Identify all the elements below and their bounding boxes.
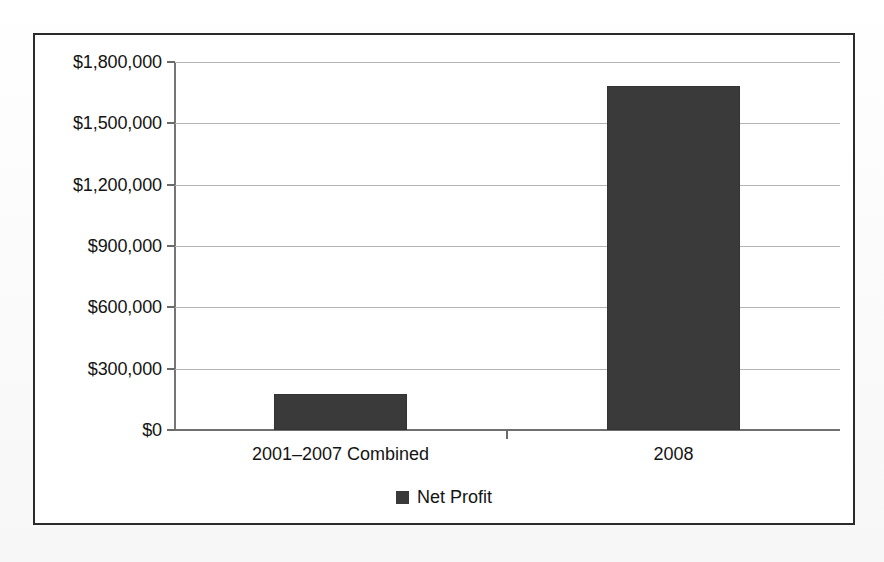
y-axis-label: $1,500,000 [73,113,162,134]
category-separator-tick [506,430,508,439]
y-axis-label: $1,200,000 [73,174,162,195]
y-axis-label: $600,000 [88,297,162,318]
y-axis-tick [167,245,175,247]
y-axis-tick [167,429,175,431]
y-axis-label: $0 [142,420,162,441]
bar-2 [607,86,740,430]
gridline [174,369,840,370]
gridline [174,123,840,124]
y-axis-tick [167,368,175,370]
gridline [174,62,840,63]
chart-legend: Net Profit [35,487,853,508]
gridline [174,246,840,247]
gridline [174,307,840,308]
y-axis-label: $300,000 [88,358,162,379]
bar-1 [274,394,407,430]
plot-area: $1,800,000$1,500,000$1,200,000$900,000$6… [174,62,840,430]
y-axis-tick [167,306,175,308]
chart-screenshot: $1,800,000$1,500,000$1,200,000$900,000$6… [0,0,884,562]
y-axis-label: $900,000 [88,236,162,257]
legend-swatch-net-profit [396,491,409,504]
x-axis-label-2: 2008 [653,444,693,465]
y-axis-tick [167,184,175,186]
y-axis-tick [167,122,175,124]
y-axis-label: $1,800,000 [73,52,162,73]
chart-frame: $1,800,000$1,500,000$1,200,000$900,000$6… [33,33,855,525]
x-axis-label-1: 2001–2007 Combined [252,444,429,465]
gridline [174,185,840,186]
legend-label-net-profit: Net Profit [417,487,492,508]
y-axis-tick [167,61,175,63]
